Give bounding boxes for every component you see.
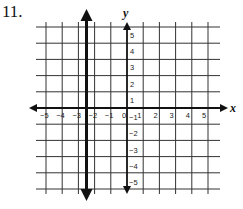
x-axis-arrow-left-icon <box>29 104 37 112</box>
x-tick-label: −3 <box>72 111 81 120</box>
x-tick-label: −4 <box>56 111 65 120</box>
x-axis-label: x <box>229 101 236 115</box>
x-axis-arrow-right-icon <box>220 104 228 112</box>
x-tick-label: 4 <box>186 111 190 120</box>
line-arrow-down-icon <box>81 189 93 201</box>
y-axis-arrow-down-icon <box>123 186 131 194</box>
x-tick-label: 1 <box>137 111 141 120</box>
y-tick-label: −5 <box>129 178 138 187</box>
x-tick-label: −1 <box>105 111 114 120</box>
y-tick-label: −2 <box>129 129 138 138</box>
x-tick-label: −2 <box>89 111 98 120</box>
y-axis-label: y <box>121 6 129 20</box>
tick-labels: −5−4−3−2−101234512345−1−2−3−4−5 <box>40 31 206 187</box>
y-axis-arrow-up-icon <box>123 22 131 30</box>
y-tick-label: −4 <box>129 162 138 171</box>
y-tick-label: 2 <box>130 80 134 89</box>
y-tick-label: 3 <box>130 63 134 72</box>
coordinate-graph: −5−4−3−2−101234512345−1−2−3−4−5 x y <box>0 0 243 209</box>
y-tick-label: −3 <box>129 146 138 155</box>
plotted-vertical-line <box>81 9 93 201</box>
x-tick-label: 5 <box>202 111 206 120</box>
y-tick-label: 1 <box>130 96 134 105</box>
x-tick-label: 0 <box>122 111 126 120</box>
x-tick-label: 3 <box>170 111 174 120</box>
y-tick-label: 4 <box>130 47 134 56</box>
line-arrow-up-icon <box>81 9 93 21</box>
x-tick-label: −5 <box>40 111 49 120</box>
y-tick-label: 5 <box>130 31 134 40</box>
x-tick-label: 2 <box>153 111 157 120</box>
y-tick-label: −1 <box>129 113 138 122</box>
